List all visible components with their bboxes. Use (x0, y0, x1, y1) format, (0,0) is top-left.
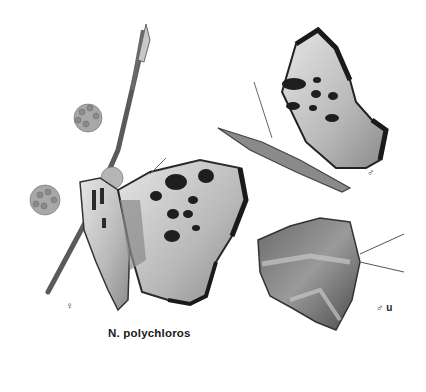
male-butterfly-underside (258, 218, 404, 330)
male-butterfly-side (218, 30, 386, 192)
butterfly-plate-illustration (0, 0, 426, 392)
female-symbol-label: ♀ (66, 300, 74, 311)
male-underside-label: ♂ u (376, 302, 392, 313)
male-symbol-label: ♂ (367, 167, 375, 178)
female-butterfly (80, 158, 246, 310)
species-caption: N. polychloros (108, 327, 191, 339)
